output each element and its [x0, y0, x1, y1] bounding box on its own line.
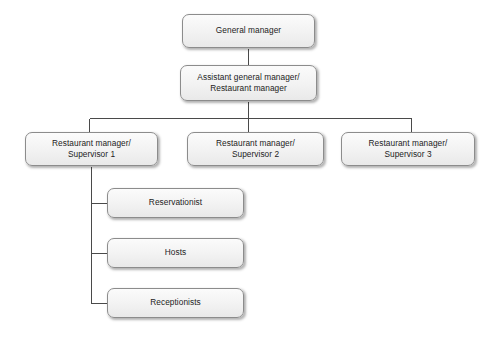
node-general-manager[interactable]: General manager	[182, 14, 315, 48]
node-receptionists-label: Receptionists	[146, 297, 204, 309]
node-reservationist-label: Reservationist	[145, 197, 206, 209]
node-supervisor-3-label: Restaurant manager/ Supervisor 3	[365, 138, 452, 161]
node-supervisor-1-label: Restaurant manager/ Supervisor 1	[48, 138, 135, 161]
node-assistant-general-manager[interactable]: Assistant general manager/ Restaurant ma…	[180, 65, 317, 101]
org-chart-canvas: General manager Assistant general manage…	[0, 0, 499, 341]
node-supervisor-1[interactable]: Restaurant manager/ Supervisor 1	[25, 132, 158, 166]
node-supervisor-3[interactable]: Restaurant manager/ Supervisor 3	[341, 132, 475, 166]
node-hosts-label: Hosts	[161, 247, 190, 259]
connector-layer	[0, 0, 499, 341]
node-assistant-general-manager-label: Assistant general manager/ Restaurant ma…	[193, 72, 303, 95]
node-hosts[interactable]: Hosts	[107, 238, 244, 268]
node-receptionists[interactable]: Receptionists	[107, 288, 244, 318]
node-supervisor-2-label: Restaurant manager/ Supervisor 2	[212, 138, 299, 161]
node-general-manager-label: General manager	[212, 25, 285, 37]
node-reservationist[interactable]: Reservationist	[107, 188, 244, 218]
node-supervisor-2[interactable]: Restaurant manager/ Supervisor 2	[187, 132, 324, 166]
